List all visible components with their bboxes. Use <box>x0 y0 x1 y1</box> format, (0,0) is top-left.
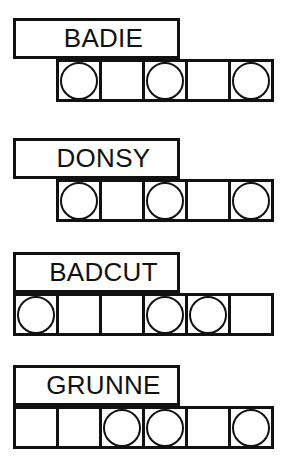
answer-cell[interactable] <box>102 182 145 219</box>
circle-marker-icon <box>232 182 270 220</box>
clue-label-text: DONSY <box>16 141 177 176</box>
answer-cell[interactable] <box>231 62 274 99</box>
clue-label-box: GRUNNE <box>13 365 180 406</box>
circle-marker-icon <box>146 182 184 220</box>
circle-marker-icon <box>232 62 270 100</box>
answer-cell[interactable] <box>188 409 231 446</box>
answer-cell[interactable] <box>102 62 145 99</box>
answer-grid <box>56 179 274 222</box>
answer-cell[interactable] <box>145 296 188 333</box>
answer-grid <box>56 59 274 102</box>
circle-marker-icon <box>103 409 141 447</box>
clue-label-text: GRUNNE <box>16 368 177 403</box>
circle-marker-icon <box>146 409 184 447</box>
answer-grid <box>13 293 274 336</box>
clue-label-text: BADIE <box>16 21 177 56</box>
answer-cell[interactable] <box>102 409 145 446</box>
circle-marker-icon <box>189 296 227 334</box>
circle-marker-icon <box>17 296 55 334</box>
answer-cell[interactable] <box>231 409 274 446</box>
circle-marker-icon <box>60 62 98 100</box>
answer-cell[interactable] <box>188 182 231 219</box>
circle-marker-icon <box>60 182 98 220</box>
clue-label-box: BADCUT <box>13 252 180 293</box>
clue-label-text: BADCUT <box>16 255 177 290</box>
circle-marker-icon <box>146 296 184 334</box>
answer-cell[interactable] <box>231 182 274 219</box>
clue-label-box: BADIE <box>13 18 180 59</box>
answer-cell[interactable] <box>59 296 102 333</box>
circle-marker-icon <box>146 62 184 100</box>
answer-cell[interactable] <box>59 62 102 99</box>
answer-cell[interactable] <box>188 296 231 333</box>
answer-cell[interactable] <box>59 182 102 219</box>
answer-cell[interactable] <box>188 62 231 99</box>
answer-cell[interactable] <box>145 409 188 446</box>
answer-cell[interactable] <box>59 409 102 446</box>
answer-cell[interactable] <box>16 409 59 446</box>
answer-cell[interactable] <box>231 296 274 333</box>
answer-cell[interactable] <box>145 62 188 99</box>
answer-grid <box>13 406 274 449</box>
answer-cell[interactable] <box>145 182 188 219</box>
puzzle-sheet: BADIEDONSYBADCUTGRUNNE <box>0 0 285 459</box>
answer-cell[interactable] <box>16 296 59 333</box>
answer-cell[interactable] <box>102 296 145 333</box>
circle-marker-icon <box>232 409 270 447</box>
clue-label-box: DONSY <box>13 138 180 179</box>
